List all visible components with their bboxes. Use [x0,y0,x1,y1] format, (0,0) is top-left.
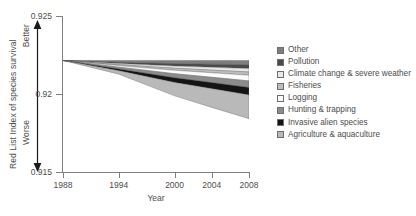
legend-swatch-icon [277,71,284,78]
red-list-index-chart: Red List Index of species survival Bette… [0,0,416,216]
legend-swatch-icon [277,131,284,138]
legend-item-label: Other [288,46,308,54]
legend-item-label: Pollution [288,58,319,66]
x-tick-label-1: 1994 [109,180,128,190]
legend-swatch-icon [277,83,284,90]
legend-item[interactable]: Invasive alien species [277,117,411,129]
legend-item[interactable]: Hunting & trapping [277,104,411,116]
y-tick-label-2: 0.925 [31,11,52,21]
legend-item[interactable]: Climate change & severe weather [277,68,411,80]
legend-item-label: Agriculture & aquaculture [288,131,380,139]
x-tick-1 [119,173,120,178]
legend-item-label: Fisheries [288,82,321,90]
x-tick-label-3: 2004 [202,180,221,190]
legend-swatch-icon [277,107,284,114]
plot-area [63,16,249,172]
stacked-area-paths [63,16,249,172]
direction-label-worse: Worse [21,120,31,145]
legend-swatch-icon [277,119,284,126]
y-tick-2 [56,16,63,17]
y-axis-title: Red List Index of species survival [8,18,18,190]
legend-item[interactable]: Pollution [277,56,411,68]
legend-item-label: Logging [288,94,317,102]
x-tick-0 [63,173,64,178]
x-tick-label-4: 2008 [240,180,259,190]
x-axis-spine [62,172,250,173]
legend-swatch-icon [277,47,284,54]
y-tick-0 [56,172,63,173]
legend-swatch-icon [277,59,284,66]
y-tick-label-0: 0.915 [31,167,52,177]
x-tick-label-0: 1988 [54,180,73,190]
legend-item[interactable]: Fisheries [277,80,411,92]
y-tick-label-1: 0.92 [35,89,52,99]
legend: OtherPollutionClimate change & severe we… [277,44,411,141]
legend-item-label: Hunting & trapping [288,106,356,114]
x-tick-label-2: 2000 [165,180,184,190]
x-axis-title: Year [0,193,312,203]
x-tick-2 [175,173,176,178]
legend-item-label: Climate change & severe weather [288,70,411,78]
y-tick-1 [56,94,63,95]
legend-item-label: Invasive alien species [288,119,368,127]
legend-item[interactable]: Other [277,44,411,56]
legend-swatch-icon [277,95,284,102]
direction-label-better: Better [21,24,31,47]
legend-item[interactable]: Agriculture & aquaculture [277,129,411,141]
x-tick-4 [249,173,250,178]
x-tick-3 [212,173,213,178]
legend-item[interactable]: Logging [277,92,411,104]
